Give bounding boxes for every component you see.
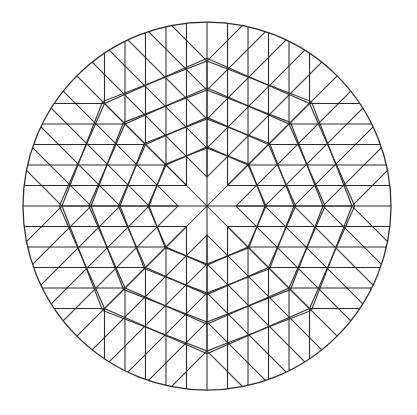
mandala-geometry	[23, 22, 391, 390]
mandala-figure: Geometric Star Mandala Coloring Page	[0, 0, 417, 415]
